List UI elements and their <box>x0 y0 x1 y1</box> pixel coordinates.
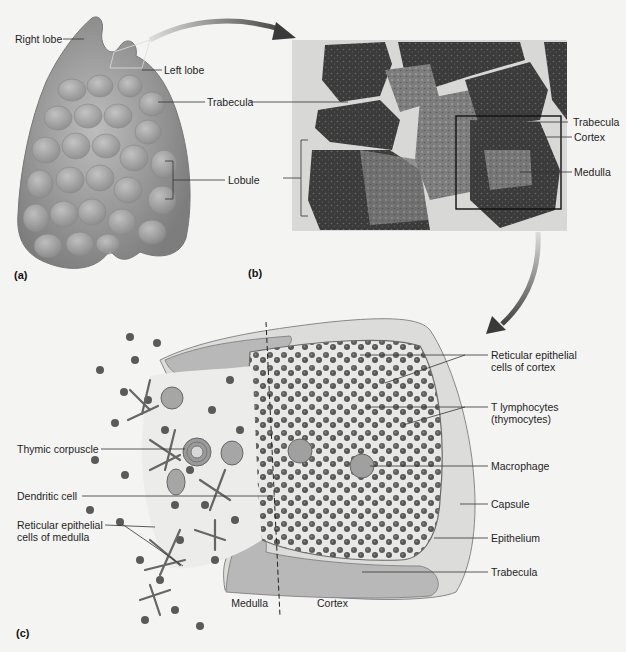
thymic-corpuscle <box>183 438 211 466</box>
label-reticular-cortex-line1: Reticular epithelial <box>491 349 577 361</box>
micrograph <box>292 40 567 231</box>
label-cortex-c: Cortex <box>317 597 348 609</box>
panel-letter-b: (b) <box>248 267 262 279</box>
panel-letter-c: (c) <box>16 627 29 639</box>
label-medulla-b: Medulla <box>574 166 611 178</box>
lobule-cross-section <box>86 319 475 630</box>
label-lobule-a: Lobule <box>228 174 260 186</box>
label-capsule: Capsule <box>491 498 530 510</box>
thymus-figure: Right lobe Left lobe Trabecula Lobule (a… <box>0 0 626 652</box>
label-reticular-medulla-line1: Reticular epithelial <box>17 519 103 531</box>
label-trabecula-b: Trabecula <box>573 116 619 128</box>
label-t-lymphocytes-line2: (thymocytes) <box>491 413 551 425</box>
arrow-a-to-b <box>150 21 282 40</box>
thymus-organ <box>18 17 190 268</box>
label-cortex-b: Cortex <box>574 131 605 143</box>
label-dendritic-cell: Dendritic cell <box>17 490 77 502</box>
label-reticular-medulla-line2: cells of medulla <box>17 531 89 543</box>
illustration-canvas <box>0 0 626 652</box>
label-t-lymphocytes-line1: T lymphocytes <box>491 401 559 413</box>
label-thymic-corpuscle: Thymic corpuscle <box>17 443 99 455</box>
label-trabecula-c: Trabecula <box>491 566 537 578</box>
label-reticular-cortex-line2: cells of cortex <box>491 361 555 373</box>
label-right-lobe: Right lobe <box>15 33 62 45</box>
arrow-b-to-c <box>502 232 538 324</box>
label-medulla-c: Medulla <box>231 597 268 609</box>
label-epithelium: Epithelium <box>491 532 540 544</box>
panel-letter-a: (a) <box>14 269 27 281</box>
label-left-lobe: Left lobe <box>164 64 204 76</box>
label-macrophage: Macrophage <box>491 460 549 472</box>
label-trabecula-a: Trabecula <box>207 96 253 108</box>
